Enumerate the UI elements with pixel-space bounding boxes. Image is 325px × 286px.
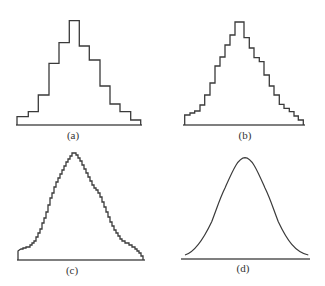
panel-a bbox=[16, 21, 142, 125]
label-d: (d) bbox=[237, 263, 250, 274]
histogram-b bbox=[185, 22, 304, 125]
label-b: (b) bbox=[239, 130, 252, 141]
label-c: (c) bbox=[66, 265, 78, 276]
label-a: (a) bbox=[67, 130, 79, 141]
normal-curve-d bbox=[185, 158, 308, 255]
histogram-c bbox=[18, 153, 143, 260]
panel-d bbox=[181, 158, 310, 259]
panel-c bbox=[17, 153, 145, 260]
figure: (a) (b) (c) (d) bbox=[0, 0, 325, 286]
figure-canvas bbox=[0, 0, 325, 286]
panel-b bbox=[183, 22, 305, 125]
histogram-a bbox=[17, 21, 141, 125]
